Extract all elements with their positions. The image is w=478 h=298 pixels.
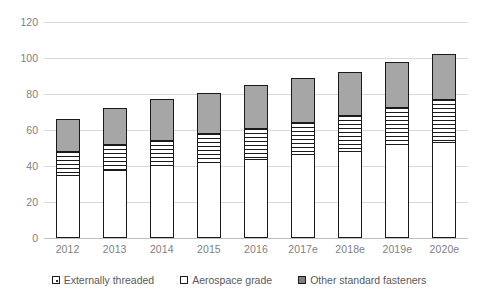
x-tick-label: 2014	[138, 243, 185, 255]
x-tick-label: 2018e	[327, 243, 374, 255]
x-tick-label: 2015	[185, 243, 232, 255]
bar-segment[interactable]	[103, 108, 127, 144]
x-axis-labels: 201220132014201520162017e2018e2019e2020e	[44, 243, 468, 255]
bar-segment[interactable]	[150, 140, 174, 165]
bar-segment[interactable]	[197, 93, 221, 133]
stacked-bar[interactable]	[385, 62, 409, 238]
stacked-bar[interactable]	[150, 99, 174, 238]
x-tick-label: 2016	[232, 243, 279, 255]
bar-series-container	[44, 22, 468, 238]
bar-segment[interactable]	[338, 115, 362, 151]
bar-segment[interactable]	[385, 62, 409, 107]
legend-item[interactable]: Externally threaded	[52, 274, 154, 286]
bar-segment[interactable]	[150, 99, 174, 140]
stacked-bar[interactable]	[56, 119, 80, 238]
bar-segment[interactable]	[244, 85, 268, 128]
stacked-bar[interactable]	[432, 54, 456, 238]
stacked-bar[interactable]	[197, 93, 221, 238]
bar-segment[interactable]	[197, 162, 221, 238]
bar-segment[interactable]	[432, 54, 456, 99]
bar-segment[interactable]	[56, 151, 80, 175]
bar-segment[interactable]	[197, 133, 221, 163]
bar-segment[interactable]	[385, 144, 409, 238]
stacked-bar[interactable]	[291, 78, 315, 238]
y-tick-label: 40	[0, 161, 38, 172]
bar-group	[44, 22, 91, 238]
bar-group	[138, 22, 185, 238]
bar-segment[interactable]	[56, 119, 80, 151]
bar-segment[interactable]	[291, 122, 315, 154]
stacked-bar[interactable]	[244, 85, 268, 238]
legend-item[interactable]: Aerospace grade	[180, 274, 272, 286]
y-tick-label: 0	[0, 233, 38, 244]
bar-segment[interactable]	[385, 107, 409, 145]
bar-group	[374, 22, 421, 238]
bar-segment[interactable]	[432, 142, 456, 238]
legend-item[interactable]: Other standard fasteners	[298, 274, 426, 286]
bar-group	[280, 22, 327, 238]
bar-group	[421, 22, 468, 238]
x-tick-label: 2019e	[374, 243, 421, 255]
bar-segment[interactable]	[291, 78, 315, 122]
y-tick-label: 120	[0, 17, 38, 28]
bar-segment[interactable]	[291, 154, 315, 238]
bar-group	[232, 22, 279, 238]
bar-segment[interactable]	[338, 151, 362, 238]
legend-label: Aerospace grade	[192, 274, 272, 286]
legend-swatch-icon	[52, 276, 60, 284]
bar-segment[interactable]	[244, 128, 268, 159]
chart-legend: Externally threadedAerospace gradeOther …	[0, 274, 478, 286]
legend-swatch-icon	[298, 276, 306, 284]
y-axis-labels: 120 100 80 60 40 20 0	[0, 22, 38, 238]
x-tick-label: 2013	[91, 243, 138, 255]
legend-label: Externally threaded	[64, 274, 154, 286]
stacked-bar-chart: 120 100 80 60 40 20 0 201220132014201520…	[0, 0, 478, 298]
bar-segment[interactable]	[338, 72, 362, 115]
legend-swatch-icon	[180, 276, 188, 284]
legend-label: Other standard fasteners	[310, 274, 426, 286]
bar-group	[327, 22, 374, 238]
x-tick-label: 2017e	[280, 243, 327, 255]
bar-segment[interactable]	[150, 165, 174, 238]
y-tick-label: 100	[0, 53, 38, 64]
stacked-bar[interactable]	[103, 108, 127, 238]
bar-segment[interactable]	[56, 175, 80, 238]
bar-segment[interactable]	[432, 99, 456, 141]
bar-segment[interactable]	[103, 144, 127, 170]
bar-group	[91, 22, 138, 238]
bar-group	[185, 22, 232, 238]
bar-segment[interactable]	[103, 170, 127, 238]
stacked-bar[interactable]	[338, 72, 362, 238]
bar-segment[interactable]	[244, 159, 268, 238]
y-tick-label: 60	[0, 125, 38, 136]
x-tick-label: 2020e	[421, 243, 468, 255]
axis-baseline	[44, 238, 468, 239]
y-tick-label: 80	[0, 89, 38, 100]
y-tick-label: 20	[0, 197, 38, 208]
x-tick-label: 2012	[44, 243, 91, 255]
